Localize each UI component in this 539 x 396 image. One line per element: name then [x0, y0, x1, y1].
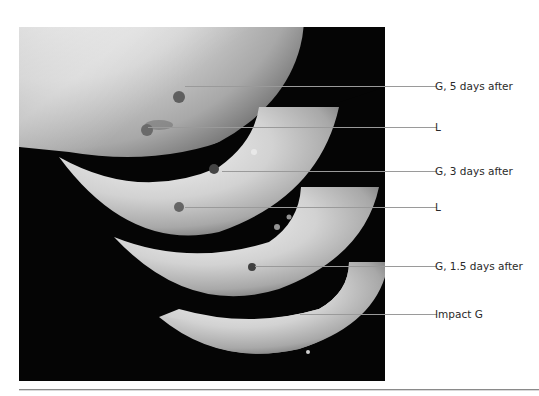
leader-line-l2: [185, 207, 437, 208]
planet-image-sequence: [19, 27, 385, 381]
label-g-5-days-after: G, 5 days after: [435, 80, 513, 92]
label-l-2: L: [435, 201, 441, 213]
leader-line-g3: [222, 171, 437, 172]
label-impact-g: Impact G: [435, 308, 483, 320]
leader-line-impact: [300, 314, 437, 315]
planet-crescents-graphic: [19, 27, 385, 381]
leader-line-g5: [185, 86, 437, 87]
bottom-rule-shadow: [19, 390, 539, 391]
label-l-1: L: [435, 121, 441, 133]
label-g-1-5-days-after: G, 1.5 days after: [435, 260, 523, 272]
label-g-3-days-after: G, 3 days after: [435, 165, 513, 177]
leader-line-g15: [255, 266, 437, 267]
leader-line-l1: [148, 127, 437, 128]
